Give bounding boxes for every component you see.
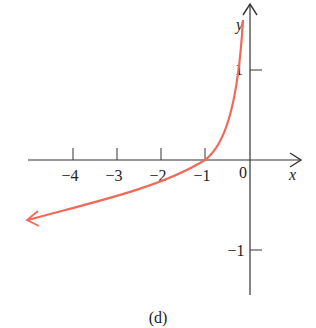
curve (28, 20, 243, 220)
chart: −4 −3 −2 −1 0 1 −1 (d) x y (0, 0, 316, 328)
x-ticks (73, 148, 205, 160)
x-tick-label: −4 (61, 167, 78, 184)
x-tick-label: −1 (193, 167, 210, 184)
x-tick-label: −3 (105, 167, 122, 184)
plot-area: −4 −3 −2 −1 0 1 −1 (d) x y (0, 0, 316, 328)
origin-label: 0 (239, 164, 247, 181)
caption: (d) (149, 309, 168, 327)
x-axis-label: x (288, 166, 296, 183)
y-tick-label: −1 (227, 242, 244, 259)
